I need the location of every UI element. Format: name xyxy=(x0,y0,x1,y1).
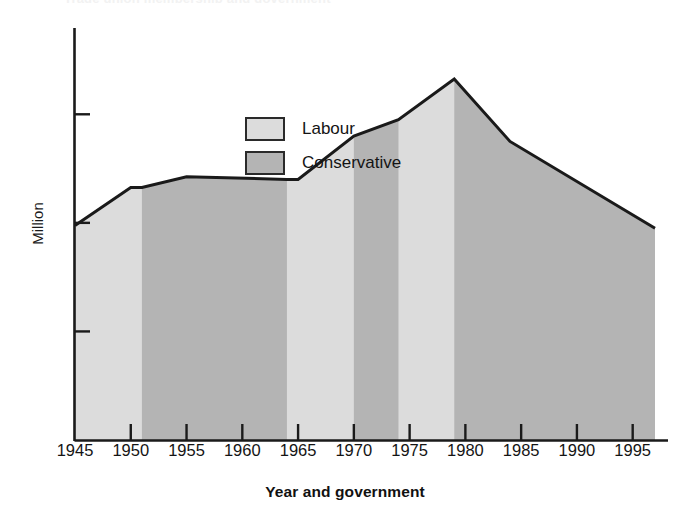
legend-item-conservative: Conservative xyxy=(245,146,401,180)
x-axis-tick-labels: 1945195019551960196519701975198019851990… xyxy=(0,441,690,467)
x-axis-tick-label: 1970 xyxy=(325,441,383,460)
x-axis-tick-label: 1980 xyxy=(436,441,494,460)
party-band-conservative-1951 xyxy=(142,28,288,442)
legend-label: Labour xyxy=(302,119,355,139)
party-band-conservative-1970 xyxy=(354,28,399,442)
x-axis-tick-label: 1955 xyxy=(158,441,216,460)
party-band-labour-1974 xyxy=(398,28,454,442)
party-band-labour-1945 xyxy=(75,28,143,442)
y-axis-title: Million xyxy=(29,169,46,279)
legend-label: Conservative xyxy=(302,153,401,173)
x-axis-tick-label: 1995 xyxy=(604,441,662,460)
party-band-conservative-1979 xyxy=(454,28,655,442)
x-axis-tick-label: 1985 xyxy=(492,441,550,460)
legend-item-labour: Labour xyxy=(245,112,401,146)
party-bands xyxy=(75,28,656,442)
x-axis-tick-label: 1950 xyxy=(102,441,160,460)
x-axis-tick-label: 1990 xyxy=(548,441,606,460)
party-band-labour-1964 xyxy=(287,28,355,442)
x-axis-tick-label: 1965 xyxy=(269,441,327,460)
chart-figure: Trade union membership and government Mi… xyxy=(0,0,690,529)
x-axis-tick-label: 1975 xyxy=(381,441,439,460)
x-axis-tick-label: 1960 xyxy=(213,441,271,460)
chart-legend: LabourConservative xyxy=(245,112,401,180)
legend-swatch-conservative xyxy=(245,151,285,175)
x-axis-tick-label: 1945 xyxy=(46,441,104,460)
x-axis-title: Year and government xyxy=(0,483,690,501)
legend-swatch-labour xyxy=(245,117,285,141)
